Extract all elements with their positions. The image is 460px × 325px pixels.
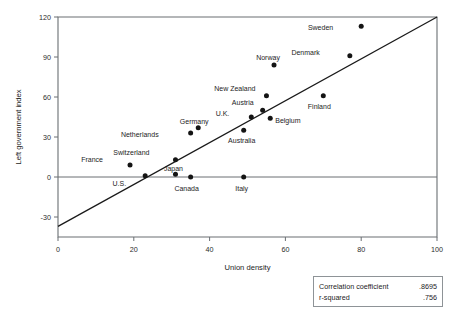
x-tick-label: 40 bbox=[206, 245, 214, 254]
y-tick-label: 120 bbox=[39, 13, 51, 22]
data-point bbox=[128, 163, 133, 168]
trend-line bbox=[58, 17, 437, 226]
data-point bbox=[196, 125, 201, 130]
data-point bbox=[272, 63, 277, 68]
data-points-layer: FranceU.S.SwitzerlandJapanNetherlandsCan… bbox=[81, 24, 363, 193]
data-point-label: Australia bbox=[228, 137, 255, 144]
y-tick-label: 90 bbox=[43, 53, 51, 62]
data-point-label: U.K. bbox=[216, 110, 230, 117]
scatter-plot-figure: 1209060300-30 020406080100 FranceU.S.Swi… bbox=[0, 0, 460, 325]
data-point-label: Austria bbox=[232, 99, 254, 106]
data-point-label: Norway bbox=[256, 54, 280, 62]
data-point-label: Switzerland bbox=[113, 149, 149, 156]
data-point bbox=[359, 24, 364, 29]
data-point bbox=[143, 173, 148, 178]
correlation-coefficient-value: .8695 bbox=[419, 281, 437, 292]
data-point bbox=[264, 93, 269, 98]
stats-row: Correlation coefficient .8695 bbox=[319, 281, 437, 292]
data-point bbox=[241, 128, 246, 133]
data-point bbox=[260, 108, 265, 113]
data-point bbox=[188, 175, 193, 180]
data-point bbox=[173, 172, 178, 177]
x-tick-label: 60 bbox=[281, 245, 289, 254]
plot-frame bbox=[58, 17, 437, 237]
correlation-coefficient-label: Correlation coefficient bbox=[319, 281, 394, 292]
x-tick-label: 20 bbox=[130, 245, 138, 254]
statistics-box: Correlation coefficient .8695 r-squared … bbox=[313, 276, 443, 307]
data-point bbox=[268, 116, 273, 121]
y-tick-label: 0 bbox=[47, 173, 51, 182]
data-point-label: Sweden bbox=[308, 24, 333, 31]
stats-row: r-squared .756 bbox=[319, 292, 437, 303]
r-squared-label: r-squared bbox=[319, 292, 356, 303]
data-point bbox=[249, 115, 254, 120]
data-point bbox=[347, 53, 352, 58]
data-point bbox=[188, 131, 193, 136]
y-tick-label: 60 bbox=[43, 93, 51, 102]
data-point bbox=[241, 175, 246, 180]
x-tick-label: 80 bbox=[357, 245, 365, 254]
data-point-label: France bbox=[81, 156, 103, 163]
y-axis-ticks: 1209060300-30 bbox=[39, 13, 58, 222]
x-tick-label: 0 bbox=[56, 245, 60, 254]
x-tick-label: 100 bbox=[431, 245, 443, 254]
x-axis-title: Union density bbox=[224, 263, 270, 272]
y-tick-label: 30 bbox=[43, 133, 51, 142]
data-point bbox=[173, 157, 178, 162]
data-point-label: U.S. bbox=[113, 180, 127, 187]
data-point-label: Canada bbox=[174, 185, 199, 192]
data-point-label: Finland bbox=[308, 103, 331, 110]
y-axis-title: Left government index bbox=[14, 89, 23, 164]
data-point-label: Belgium bbox=[275, 117, 300, 125]
data-point-label: Japan bbox=[164, 165, 183, 173]
x-axis-ticks: 020406080100 bbox=[56, 237, 443, 254]
data-point-label: Denmark bbox=[291, 49, 320, 56]
data-point bbox=[321, 93, 326, 98]
y-tick-label: -30 bbox=[41, 213, 51, 222]
r-squared-value: .756 bbox=[423, 292, 437, 303]
data-point-label: Germany bbox=[180, 118, 209, 126]
axis-titles: Union densityLeft government index bbox=[14, 89, 271, 272]
data-point-label: Netherlands bbox=[121, 131, 159, 138]
data-point-label: New Zealand bbox=[214, 85, 255, 92]
data-point-label: Italy bbox=[235, 185, 248, 193]
